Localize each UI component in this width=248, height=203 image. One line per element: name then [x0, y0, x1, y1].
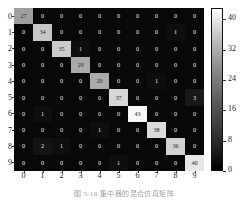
heatmap-cell-value: 0: [174, 46, 177, 52]
heatmap-cell: 0: [166, 73, 185, 89]
heatmap-cell: 0: [33, 89, 52, 105]
heatmap-cell-value: 0: [79, 143, 82, 149]
heatmap-cell: 1: [90, 122, 109, 138]
heatmap-cell: 0: [52, 73, 71, 89]
heatmap-cell-value: 1: [41, 111, 44, 117]
heatmap-cell: 0: [33, 122, 52, 138]
heatmap-cell: 0: [90, 41, 109, 57]
heatmap-cell: 0: [71, 155, 90, 171]
colorbar-tick-label: 8: [228, 136, 232, 144]
colorbar-tick-mark: [223, 171, 226, 172]
x-axis: 0123456789: [14, 171, 204, 184]
colorbar-tick-label: 24: [228, 75, 236, 83]
heatmap-cell: 0: [71, 73, 90, 89]
heatmap-cell: 0: [109, 73, 128, 89]
heatmap-cell-value: 0: [136, 62, 139, 68]
heatmap-cell-value: 3: [193, 95, 196, 101]
colorbar-tick-label: 16: [228, 105, 236, 113]
x-axis-tick-1: 1: [33, 171, 52, 184]
heatmap-cell: 0: [166, 89, 185, 105]
heatmap-cell: 0: [128, 89, 147, 105]
heatmap-cell: 0: [14, 122, 33, 138]
heatmap-cell-value: 0: [79, 13, 82, 19]
heatmap-cell: 0: [166, 8, 185, 24]
heatmap-cell-value: 0: [155, 111, 158, 117]
heatmap-cell-value: 0: [136, 78, 139, 84]
heatmap-cell: 2: [33, 138, 52, 154]
heatmap-cell: 0: [52, 89, 71, 105]
heatmap-cell: 0: [166, 106, 185, 122]
x-axis-tick-3: 3: [71, 171, 90, 184]
heatmap-cell-value: 0: [79, 111, 82, 117]
heatmap-grid: 2700000000003400000010003510000000002900…: [14, 8, 204, 171]
heatmap-cell: 0: [166, 57, 185, 73]
heatmap-cell-value: 0: [98, 29, 101, 35]
heatmap-cell-value: 0: [60, 127, 63, 133]
heatmap-cell: 0: [128, 73, 147, 89]
heatmap-cell-value: 29: [78, 62, 84, 68]
heatmap-cell: 0: [90, 89, 109, 105]
heatmap-cell-value: 0: [79, 127, 82, 133]
heatmap-cell-value: 0: [117, 127, 120, 133]
heatmap-cell-value: 0: [60, 160, 63, 166]
heatmap-cell-value: 0: [193, 111, 196, 117]
heatmap-cell-value: 0: [22, 29, 25, 35]
heatmap-cell-value: 0: [174, 160, 177, 166]
heatmap-cell-value: 0: [155, 13, 158, 19]
heatmap-cell: 0: [14, 155, 33, 171]
heatmap-cell-value: 0: [41, 46, 44, 52]
heatmap-cell-value: 0: [41, 62, 44, 68]
heatmap-cell-value: 0: [60, 95, 63, 101]
heatmap-cell-value: 1: [98, 127, 101, 133]
heatmap-cell-value: 0: [155, 46, 158, 52]
confusion-matrix-figure: 0123456789 27000000000034000000100035100…: [0, 0, 248, 203]
heatmap-cell: 0: [128, 57, 147, 73]
heatmap-cell: 0: [185, 24, 204, 40]
heatmap-cell-value: 0: [174, 62, 177, 68]
heatmap-cell: 0: [185, 138, 204, 154]
heatmap-cell: 0: [147, 24, 166, 40]
y-axis-tick-2: 2: [0, 41, 14, 57]
y-axis-tick-8: 8: [0, 138, 14, 154]
heatmap-cell-value: 0: [22, 143, 25, 149]
heatmap-cell-value: 0: [117, 78, 120, 84]
heatmap-cell-value: 0: [117, 111, 120, 117]
heatmap-cell-value: 0: [79, 95, 82, 101]
heatmap-cell: 0: [52, 24, 71, 40]
heatmap-cell-value: 0: [155, 29, 158, 35]
heatmap-cell-value: 40: [192, 160, 198, 166]
y-axis-tick-4: 4: [0, 73, 14, 89]
y-axis-tick-7: 7: [0, 122, 14, 138]
x-axis-tick-4: 4: [90, 171, 109, 184]
heatmap-cell: 0: [147, 8, 166, 24]
heatmap-cell: 0: [90, 24, 109, 40]
heatmap-cell: 0: [109, 41, 128, 57]
heatmap-cell: 36: [166, 138, 185, 154]
heatmap-cell: 0: [109, 138, 128, 154]
heatmap-cell: 29: [71, 57, 90, 73]
y-axis-tick-6: 6: [0, 106, 14, 122]
heatmap-cell: 37: [109, 89, 128, 105]
heatmap-cell-value: 0: [174, 111, 177, 117]
heatmap-cell: 29: [90, 73, 109, 89]
heatmap-cell-value: 0: [98, 62, 101, 68]
heatmap-cell: 1: [52, 138, 71, 154]
heatmap-cell-value: 35: [59, 46, 65, 52]
heatmap-cell-value: 0: [98, 143, 101, 149]
heatmap-cell-value: 0: [155, 95, 158, 101]
heatmap-cell-value: 0: [174, 78, 177, 84]
heatmap-cell: 0: [14, 57, 33, 73]
heatmap-cell: 1: [166, 24, 185, 40]
x-axis-tick-2: 2: [52, 171, 71, 184]
heatmap-cell-value: 0: [117, 143, 120, 149]
colorbar-gradient: [211, 8, 223, 171]
heatmap-cell-value: 0: [136, 127, 139, 133]
heatmap-cell: 38: [147, 122, 166, 138]
heatmap-cell: 0: [71, 106, 90, 122]
heatmap-cell-value: 0: [22, 62, 25, 68]
heatmap-cell-value: 0: [60, 111, 63, 117]
heatmap-cell: 0: [185, 106, 204, 122]
heatmap-cell: 0: [52, 155, 71, 171]
heatmap-cell: 0: [185, 73, 204, 89]
heatmap-cell-value: 0: [136, 29, 139, 35]
